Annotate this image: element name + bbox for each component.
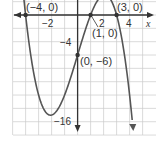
x-tick-label: −2 [42,18,54,29]
x-axis-label: x [145,18,151,29]
point-label: (0, −6) [80,55,112,67]
key-point [114,13,118,17]
curve-arrow-icon [129,124,136,131]
x-tick-label: 4 [126,18,132,29]
point-label: (−4, 0) [26,1,58,13]
point-label: (3, 0) [117,1,143,13]
x-axis-arrow-left-icon [14,12,21,18]
y-tick-label: −16 [54,116,71,127]
key-point [23,13,27,17]
grid [13,0,156,135]
leader-line [92,17,98,27]
point-label: (1, 0) [92,27,118,39]
key-point [88,13,92,17]
y-tick-label: −4 [60,37,72,48]
y-axis-arrow-down-icon [75,125,81,132]
function-curve [20,0,132,120]
cubic-function-graph: −2 2 4 x −4 −16 (−4, 0) (1, 0) (3, 0) (0… [0,0,164,146]
